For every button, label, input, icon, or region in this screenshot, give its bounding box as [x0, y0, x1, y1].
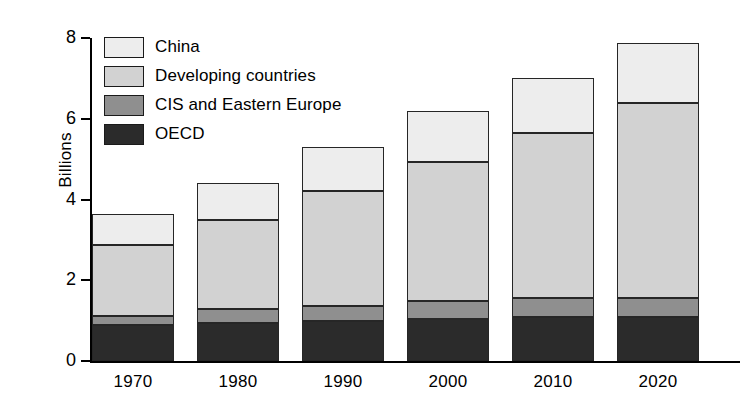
bar-segment-china: [617, 43, 699, 102]
legend-item-label: China: [155, 37, 200, 57]
y-axis-tick-label: 6: [50, 109, 76, 127]
bar-segment-cis-and-eastern-europe: [92, 316, 174, 326]
x-axis-tick-label: 1990: [302, 372, 384, 392]
bar-segment-cis-and-eastern-europe: [512, 298, 594, 318]
bar-segment-china: [92, 214, 174, 245]
bar-segment-developing-countries: [302, 191, 384, 306]
bar-segment-cis-and-eastern-europe: [407, 301, 489, 318]
x-axis-tick-label: 1980: [197, 372, 279, 392]
legend-item: OECD: [104, 121, 341, 147]
bar-segment-cis-and-eastern-europe: [302, 306, 384, 320]
bar-segment-cis-and-eastern-europe: [197, 309, 279, 322]
legend-item-label: CIS and Eastern Europe: [155, 95, 341, 115]
legend-swatch-icon: [104, 95, 144, 116]
y-axis-tick: [81, 37, 90, 39]
bar-segment-developing-countries: [197, 220, 279, 310]
stacked-bar-chart: Billions 02468 197019801990200020102020 …: [0, 0, 750, 420]
x-axis-tick-label: 2010: [512, 372, 594, 392]
bar-segment-oecd: [302, 321, 384, 361]
legend-item: CIS and Eastern Europe: [104, 92, 341, 118]
x-axis-tick-label: 2000: [407, 372, 489, 392]
bar-segment-china: [407, 111, 489, 162]
legend-item-label: OECD: [155, 124, 205, 144]
x-axis-tick-label: 1970: [92, 372, 174, 392]
bar-segment-oecd: [407, 319, 489, 361]
bar-2000: [407, 0, 489, 420]
bar-segment-china: [302, 147, 384, 191]
legend-swatch-icon: [104, 37, 144, 58]
bar-2010: [512, 0, 594, 420]
bar-2020: [617, 0, 699, 420]
bar-segment-developing-countries: [512, 133, 594, 298]
bar-segment-oecd: [92, 325, 174, 361]
legend-item-label: Developing countries: [155, 66, 316, 86]
bar-segment-developing-countries: [617, 103, 699, 298]
legend-item: China: [104, 34, 341, 60]
y-axis-tick-label: 4: [50, 190, 76, 208]
bar-segment-cis-and-eastern-europe: [617, 298, 699, 317]
bar-segment-china: [197, 183, 279, 219]
bar-segment-developing-countries: [407, 162, 489, 301]
y-axis-tick: [81, 199, 90, 201]
y-axis-tick-label: 8: [50, 28, 76, 46]
bar-segment-oecd: [512, 317, 594, 361]
y-axis-tick: [81, 279, 90, 281]
y-axis-tick-label: 0: [50, 351, 76, 369]
bar-segment-oecd: [197, 323, 279, 361]
x-axis-tick-label: 2020: [617, 372, 699, 392]
y-axis-tick: [81, 118, 90, 120]
legend-swatch-icon: [104, 124, 144, 145]
legend-item: Developing countries: [104, 63, 341, 89]
chart-legend: ChinaDeveloping countriesCIS and Eastern…: [104, 34, 341, 150]
y-axis-tick-label: 2: [50, 270, 76, 288]
bar-segment-developing-countries: [92, 245, 174, 316]
legend-swatch-icon: [104, 66, 144, 87]
y-axis-tick: [81, 360, 90, 362]
bar-segment-china: [512, 78, 594, 133]
bar-segment-oecd: [617, 317, 699, 361]
